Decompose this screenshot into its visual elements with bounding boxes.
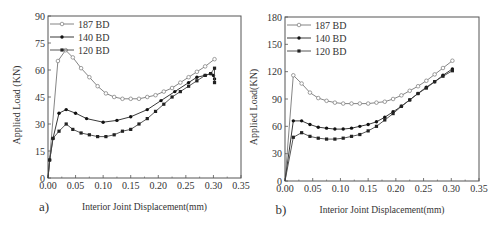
series-187-bd [48, 48, 216, 178]
y-tick-label: 75 [35, 38, 45, 49]
plot-frame [48, 16, 241, 178]
y-tick-label: 90 [35, 11, 45, 22]
legend-entry: 120 BD [315, 46, 346, 57]
filled-square-marker-icon [60, 48, 63, 51]
legend-entry: 120 BD [78, 45, 109, 56]
series-187-bd [285, 59, 454, 181]
x-tick-label: 0.20 [150, 180, 168, 191]
chart-panel-a: 0.000.050.100.150.200.250.300.3501530456… [11, 11, 250, 215]
legend-entry: 187 BD [78, 19, 109, 30]
y-tick-label: 180 [267, 12, 282, 23]
y-tick-label: 30 [35, 119, 45, 130]
x-tick-label: 0.15 [359, 183, 377, 194]
x-tick-label: 0.15 [122, 180, 140, 191]
panel-label: a) [39, 199, 49, 214]
legend-entry: 140 BD [78, 32, 109, 43]
panel-label: b) [276, 202, 287, 217]
series-140-bd [48, 72, 216, 178]
filled-square-marker-icon [297, 49, 300, 52]
y-axis-label: Applied Load (KN) [11, 66, 23, 145]
y-tick-label: 0 [40, 173, 45, 184]
series-120-bd [48, 67, 216, 178]
x-tick-label: 0.25 [177, 180, 195, 191]
y-tick-label: 60 [35, 65, 45, 76]
legend-entry: 140 BD [315, 33, 346, 44]
x-tick-label: 0.25 [415, 183, 433, 194]
series-140-bd [285, 67, 454, 181]
x-axis-label: Interior Joint Displacement(mm) [319, 205, 444, 216]
x-tick-label: 0.30 [205, 180, 223, 191]
x-tick-label: 0.10 [332, 183, 350, 194]
legend-entry: 187 BD [315, 20, 346, 31]
x-tick-label: 0.05 [67, 180, 85, 191]
chart-panel-b: 0.000.050.100.150.200.250.300.3503060901… [248, 12, 488, 218]
x-tick-label: 0.30 [443, 183, 461, 194]
legend: 187 BD140 BD120 BD [287, 20, 346, 57]
y-tick-label: 90 [272, 94, 282, 105]
legend: 187 BD140 BD120 BD [50, 19, 109, 56]
y-tick-label: 0 [277, 176, 282, 187]
x-tick-label: 0.35 [470, 183, 488, 194]
x-tick-label: 0.10 [94, 180, 112, 191]
figure: 0.000.050.100.150.200.250.300.3501530456… [0, 0, 503, 225]
y-tick-label: 45 [35, 92, 45, 103]
open-circle-marker-icon [297, 23, 301, 27]
y-tick-label: 15 [35, 146, 45, 157]
x-axis-label: Interior Joint Displacement(mm) [82, 202, 207, 213]
y-tick-label: 150 [267, 39, 282, 50]
open-circle-marker-icon [60, 22, 64, 26]
filled-circle-marker-icon [60, 35, 63, 38]
x-tick-label: 0.20 [387, 183, 405, 194]
y-tick-label: 30 [272, 148, 282, 159]
y-tick-label: 120 [267, 66, 282, 77]
filled-circle-marker-icon [297, 36, 300, 39]
x-tick-label: 0.05 [304, 183, 322, 194]
y-axis-label: Applied Load(KN) [248, 69, 260, 145]
y-tick-label: 60 [272, 121, 282, 132]
x-tick-label: 0.35 [232, 180, 250, 191]
